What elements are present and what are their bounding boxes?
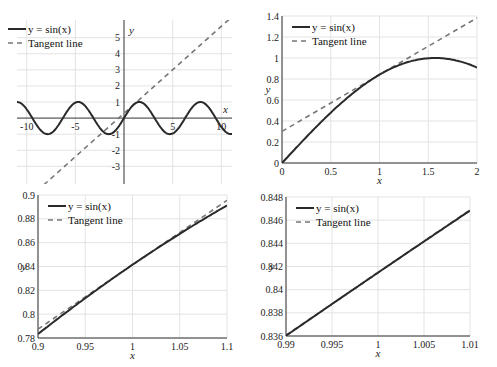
x-axis-label: x bbox=[222, 103, 228, 115]
y-tick-label: 1 bbox=[274, 53, 279, 64]
y-tick-label: 5 bbox=[115, 32, 120, 43]
x-tick-label: 0.95 bbox=[77, 341, 95, 352]
y-tick-label: 0 bbox=[274, 158, 279, 169]
y-tick-label: 1.4 bbox=[267, 11, 280, 22]
x-tick-label: -5 bbox=[71, 121, 79, 132]
legend-sin-label: y = sin(x) bbox=[68, 200, 111, 213]
y-tick-label: 0.88 bbox=[18, 213, 36, 224]
chart-panel-2: 00.511.5200.20.40.60.811.21.4xyy = sin(x… bbox=[265, 11, 480, 187]
x-tick-label: -10 bbox=[20, 121, 33, 132]
y-tick-label: 0.2 bbox=[267, 137, 280, 148]
y-axis-label: y bbox=[21, 260, 27, 272]
figure: -10-551054321-1-2-3xyy = sin(x)Tangent l… bbox=[0, 0, 497, 367]
x-tick-label: 0.5 bbox=[325, 166, 338, 177]
legend-tangent-label: Tangent line bbox=[312, 35, 367, 47]
x-tick-label: 0.995 bbox=[321, 339, 344, 350]
chart-panel-4: 0.990.99511.0051.010.8360.8380.840.8420.… bbox=[261, 192, 479, 360]
y-tick-label: 0.8 bbox=[23, 309, 36, 320]
y-tick-label: 0.86 bbox=[18, 237, 36, 248]
y-tick-label: 0.846 bbox=[261, 215, 284, 226]
x-axis-label: x bbox=[375, 347, 381, 359]
x-tick-label: 2 bbox=[475, 166, 480, 177]
chart-panel-1: -10-551054321-1-2-3xyy = sin(x)Tangent l… bbox=[8, 17, 232, 209]
y-tick-label: -3 bbox=[112, 161, 120, 172]
y-tick-label: 0.4 bbox=[267, 116, 280, 127]
legend-sin-label: y = sin(x) bbox=[316, 202, 359, 215]
legend-tangent-label: Tangent line bbox=[316, 216, 371, 228]
y-tick-label: 0.848 bbox=[261, 192, 284, 203]
x-tick-label: 5 bbox=[170, 121, 175, 132]
y-tick-label: 1 bbox=[115, 97, 120, 108]
legend-tangent-label: Tangent line bbox=[28, 37, 83, 49]
x-axis-label: x bbox=[129, 349, 135, 361]
y-axis-label: y bbox=[269, 260, 275, 272]
x-tick-label: 1.01 bbox=[461, 339, 479, 350]
y-tick-label: 3 bbox=[115, 64, 120, 75]
y-tick-label: 0.844 bbox=[261, 238, 284, 249]
x-tick-label: 0 bbox=[280, 166, 285, 177]
chart-panel-3: 0.90.9511.051.10.780.80.820.840.860.880.… bbox=[18, 190, 234, 362]
y-axis-label: y bbox=[265, 83, 271, 95]
y-tick-label: 0.836 bbox=[261, 331, 284, 342]
y-tick-label: 1.2 bbox=[267, 32, 280, 43]
x-tick-label: 1.05 bbox=[171, 341, 189, 352]
x-axis-label: x bbox=[376, 174, 382, 186]
y-tick-label: 0.82 bbox=[18, 285, 36, 296]
y-tick-label: -2 bbox=[112, 145, 120, 156]
x-tick-label: 1.005 bbox=[413, 339, 436, 350]
legend-tangent-label: Tangent line bbox=[68, 214, 123, 226]
y-axis-label: y bbox=[128, 24, 134, 36]
x-tick-label: 1.1 bbox=[221, 341, 234, 352]
y-tick-label: 0.78 bbox=[18, 333, 36, 344]
y-tick-label: 0.838 bbox=[261, 307, 284, 318]
y-tick-label: 2 bbox=[115, 80, 120, 91]
legend-sin-label: y = sin(x) bbox=[28, 23, 71, 36]
x-tick-label: 1.5 bbox=[422, 166, 435, 177]
y-tick-label: 0.6 bbox=[267, 95, 280, 106]
y-tick-label: 0.9 bbox=[23, 190, 36, 201]
y-tick-label: 4 bbox=[115, 48, 120, 59]
y-tick-label: 0.84 bbox=[266, 284, 284, 295]
legend-sin-label: y = sin(x) bbox=[312, 21, 355, 34]
